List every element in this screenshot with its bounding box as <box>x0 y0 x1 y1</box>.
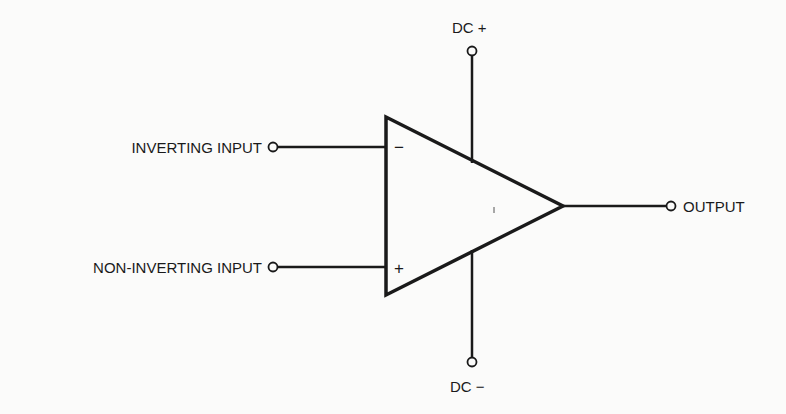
non-inverting-input-label: NON-INVERTING INPUT <box>93 259 262 276</box>
dc-minus-terminal <box>468 358 477 367</box>
inverting-input-label: INVERTING INPUT <box>131 139 262 156</box>
op-amp-triangle <box>386 117 563 295</box>
inverting-input-terminal <box>269 143 278 152</box>
dc-plus-terminal <box>468 47 477 56</box>
output-terminal <box>667 202 676 211</box>
dc-minus-label: DC − <box>450 378 485 395</box>
non-inverting-pin-mark: + <box>394 259 404 278</box>
inverting-pin-mark: − <box>394 138 404 157</box>
op-amp-diagram: DC + DC − INVERTING INPUT − NON-INVERTIN… <box>0 0 786 414</box>
non-inverting-input-terminal <box>269 263 278 272</box>
output-label: OUTPUT <box>683 198 745 215</box>
dc-plus-label: DC + <box>452 19 487 36</box>
